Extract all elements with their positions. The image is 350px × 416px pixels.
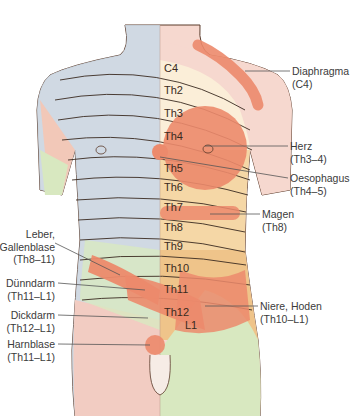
label-line: (Th8–11) bbox=[0, 253, 55, 266]
segment-label: C4 bbox=[164, 62, 178, 74]
label-oesophagus: Oesophagus (Th4–5) bbox=[290, 172, 350, 197]
label-diaphragma: Diaphragma (C4) bbox=[292, 65, 349, 90]
segment-label: Th11 bbox=[164, 283, 188, 295]
label-line: (Th11–L1) bbox=[7, 351, 55, 364]
label-line: Diaphragma bbox=[292, 65, 349, 78]
segment-label: Th4 bbox=[164, 130, 183, 142]
label-line: Dickdarm bbox=[7, 309, 55, 322]
label-duenndarm: Dünndarm (Th11–L1) bbox=[6, 277, 55, 302]
label-niere-hoden: Niere, Hoden (Th10–L1) bbox=[260, 300, 322, 325]
label-line: Dünndarm bbox=[6, 277, 55, 290]
segment-label: Th7 bbox=[164, 201, 183, 213]
label-herz: Herz (Th3–4) bbox=[290, 140, 327, 165]
segment-label: Th9 bbox=[164, 240, 183, 252]
segment-label: Th8 bbox=[164, 221, 183, 233]
segment-label: L1 bbox=[185, 319, 197, 331]
label-line: Magen bbox=[262, 208, 294, 221]
label-line: (C4) bbox=[292, 78, 349, 91]
label-harnblase: Harnblase (Th11–L1) bbox=[7, 338, 55, 363]
label-line: (Th11–L1) bbox=[6, 290, 55, 303]
label-line: (Th4–5) bbox=[290, 185, 350, 198]
label-line: (Th12–L1) bbox=[7, 322, 55, 335]
segment-label: Th2 bbox=[164, 84, 183, 96]
label-magen: Magen (Th8) bbox=[262, 208, 294, 233]
label-line: (Th8) bbox=[262, 221, 294, 234]
segment-label: Th5 bbox=[164, 162, 183, 174]
label-dickdarm: Dickdarm (Th12–L1) bbox=[7, 309, 55, 334]
label-line: Gallenblase bbox=[0, 241, 55, 254]
label-line: Harnblase bbox=[7, 338, 55, 351]
label-line: Leber, bbox=[0, 228, 55, 241]
label-line: Niere, Hoden bbox=[260, 300, 322, 313]
label-leber-gallenblase: Leber, Gallenblase (Th8–11) bbox=[0, 228, 55, 266]
label-line: Herz bbox=[290, 140, 327, 153]
label-line: Oesophagus bbox=[290, 172, 350, 185]
segment-label: Th3 bbox=[164, 107, 183, 119]
label-line: (Th10–L1) bbox=[260, 313, 322, 326]
segment-label: Th10 bbox=[164, 262, 189, 274]
label-line: (Th3–4) bbox=[290, 153, 327, 166]
segment-label: Th6 bbox=[164, 181, 183, 193]
segment-label: Th12 bbox=[164, 306, 189, 318]
